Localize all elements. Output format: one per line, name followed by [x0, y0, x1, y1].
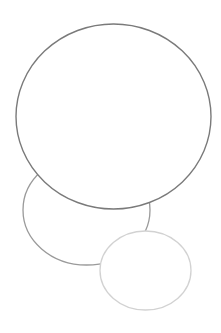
- diagram-canvas: [0, 0, 221, 333]
- small-bottom-right-ellipse: [100, 231, 191, 310]
- large-top-circle: [16, 24, 211, 209]
